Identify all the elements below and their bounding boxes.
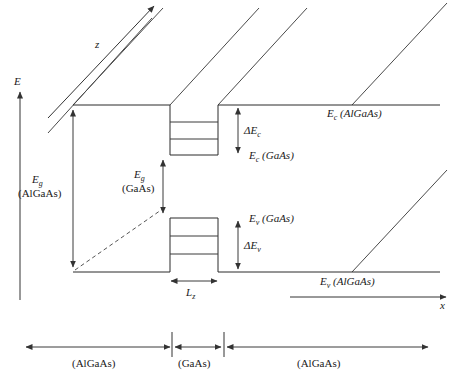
- region-label-middle: (GaAs): [178, 357, 211, 370]
- ec-algaas-label: Ec (AlGaAs): [326, 107, 382, 122]
- eg-gaas-annotation: Eg (GaAs): [122, 160, 163, 213]
- ev-gaas-label: Ev (GaAs): [248, 212, 294, 227]
- eg-algaas-label: Eg: [31, 173, 43, 188]
- eg-algaas-annotation: Eg (AlGaAs): [18, 110, 73, 267]
- dashed-guide-line: [75, 208, 164, 270]
- ev-algaas-label: Ev (AlGaAs): [319, 275, 375, 290]
- eg-gaas-label: Eg: [133, 168, 145, 183]
- z-axis: z: [48, 6, 154, 118]
- eg-algaas-material: (AlGaAs): [18, 187, 62, 200]
- eg-gaas-material: (GaAs): [122, 182, 155, 195]
- z-axis-arrow: [48, 6, 154, 118]
- energy-axis-label: E: [13, 75, 21, 87]
- delta-ev-label: ΔEv: [243, 239, 261, 254]
- band-diagram-svg: z E x Eg (AlGa: [0, 0, 457, 375]
- perspective-lines: [48, 3, 447, 272]
- position-axis-label: x: [439, 299, 445, 311]
- persp-line-well-right: [218, 8, 307, 105]
- delta-ev-annotation: ΔEv: [238, 221, 261, 269]
- valence-subbands: [170, 236, 218, 254]
- region-label-left: (AlGaAs): [72, 357, 116, 370]
- well-width-annotation: Lz: [171, 281, 217, 301]
- z-axis-label: z: [94, 38, 100, 50]
- region-scale: (AlGaAs) (GaAs) (AlGaAs): [26, 332, 428, 370]
- delta-ec-annotation: ΔEc: [238, 108, 261, 153]
- persp-line-well-left: [170, 8, 259, 105]
- ec-gaas-label: Ec (GaAs): [248, 149, 294, 164]
- delta-ec-label: ΔEc: [243, 124, 261, 139]
- well-width-label: Lz: [185, 286, 196, 301]
- persp-line-vb-right: [352, 170, 447, 272]
- persp-line-cb-right: [352, 3, 447, 105]
- conduction-subbands: [170, 122, 218, 139]
- region-label-right: (AlGaAs): [297, 357, 341, 370]
- band-diagram-figure: z E x Eg (AlGa: [0, 0, 457, 375]
- persp-line-cb-left-outer: [48, 18, 152, 133]
- position-axis: x: [290, 297, 446, 311]
